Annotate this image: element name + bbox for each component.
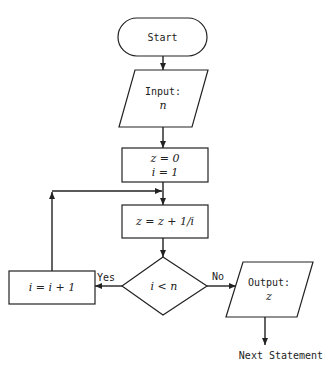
output-var: z: [265, 290, 272, 303]
input-var: n: [159, 99, 166, 112]
decision-diamond: i < n: [122, 257, 207, 315]
output-parallelogram: Output: z: [226, 262, 313, 317]
init-process: z = 0 i = 1: [122, 148, 208, 182]
flowchart: Start Input: n z = 0 i = 1 z = z + 1/i i…: [0, 0, 329, 376]
start-label: Start: [147, 32, 177, 43]
decision-label: i < n: [151, 280, 178, 293]
update-z-process: z = z + 1/i: [122, 205, 208, 238]
increment-label: i = i + 1: [29, 281, 75, 294]
no-label: No: [212, 271, 224, 282]
output-label: Output:: [248, 277, 290, 288]
update-z-label: z = z + 1/i: [135, 215, 194, 228]
input-parallelogram: Input: n: [119, 70, 208, 127]
increment-process: i = i + 1: [9, 271, 95, 304]
next-statement-label: Next Statement: [239, 350, 323, 361]
start-terminal: Start: [118, 18, 207, 56]
init-line1: z = 0: [149, 152, 179, 165]
init-line2: i = 1: [152, 166, 179, 179]
yes-label: Yes: [97, 272, 115, 283]
input-label: Input:: [145, 86, 181, 97]
